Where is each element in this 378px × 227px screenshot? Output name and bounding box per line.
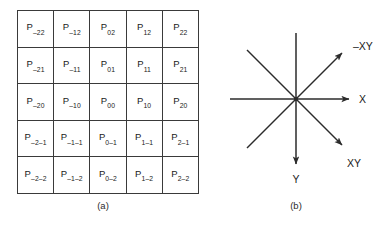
ray-up-left — [247, 50, 296, 99]
cell-subscript: 22 — [180, 29, 188, 36]
cell-subscript: 2–1 — [178, 139, 190, 146]
grid-cell: P01 — [90, 47, 126, 84]
cell-subscript: –1–1 — [67, 139, 83, 146]
table-row: P–22 P–12 P02 P12 P22 — [18, 11, 199, 48]
table-row: P–2–1 P–1–1 P0–1 P1–1 P2–1 — [18, 120, 199, 157]
label-minus-xy: –XY — [353, 40, 373, 52]
table-row: P–21 P–11 P01 P11 P21 — [18, 47, 199, 84]
grid-cell: P1–1 — [126, 120, 162, 157]
grid-cell: P–21 — [18, 47, 54, 84]
cell-subscript: –1–2 — [67, 175, 83, 182]
arrow-down-right-xy — [296, 99, 342, 145]
cell-base: P — [135, 131, 141, 142]
grid-cell: P–20 — [18, 84, 54, 121]
figure-a-grid: P–22 P–12 P02 P12 P22 P–21 P–11 P01 P11 … — [17, 10, 193, 188]
cell-subscript: 0–1 — [105, 139, 117, 146]
cell-subscript: 1–1 — [142, 139, 154, 146]
label-x: X — [359, 93, 366, 105]
grid-cell: P–2–1 — [18, 120, 54, 157]
cell-base: P — [171, 131, 177, 142]
grid-cell: P2–1 — [162, 120, 198, 157]
cell-subscript: –11 — [69, 66, 80, 73]
origin-dot — [294, 97, 298, 101]
ray-down-left — [247, 99, 296, 148]
cell-subscript: –10 — [69, 102, 81, 109]
arrow-up-right-minus-xy — [296, 53, 342, 99]
cell-base: P — [173, 58, 179, 69]
grid-cell: P–1–1 — [54, 120, 90, 157]
cell-subscript: 11 — [144, 66, 151, 73]
cell-subscript: 01 — [107, 66, 115, 73]
cell-subscript: 10 — [143, 102, 151, 109]
cell-base: P — [135, 168, 141, 179]
cell-subscript: 0–2 — [105, 175, 117, 182]
label-xy: XY — [347, 157, 361, 169]
grid-cell: P12 — [126, 11, 162, 48]
p-index-table: P–22 P–12 P02 P12 P22 P–21 P–11 P01 P11 … — [17, 10, 199, 194]
grid-cell: P1–2 — [126, 157, 162, 194]
grid-cell: P–12 — [54, 11, 90, 48]
grid-cell: P–22 — [18, 11, 54, 48]
cell-base: P — [173, 21, 179, 32]
grid-cell: P10 — [126, 84, 162, 121]
cell-subscript: 21 — [180, 66, 188, 73]
cell-subscript: 1–2 — [142, 175, 154, 182]
caption-figure-a: (a) — [63, 200, 143, 211]
grid-cell: P2–2 — [162, 157, 198, 194]
table-row: P–20 P–10 P00 P10 P20 — [18, 84, 199, 121]
cell-subscript: –2–1 — [31, 139, 47, 146]
grid-cell: P11 — [126, 47, 162, 84]
grid-cell: P–11 — [54, 47, 90, 84]
grid-cell: P–2–2 — [18, 157, 54, 194]
grid-cell: P–1–2 — [54, 157, 90, 194]
axes-svg: –XY X XY Y — [214, 12, 378, 188]
grid-cell: P0–2 — [90, 157, 126, 194]
cell-subscript: 00 — [107, 102, 115, 109]
cell-subscript: –21 — [33, 66, 45, 73]
cell-subscript: –20 — [33, 102, 45, 109]
table-row: P–2–2 P–1–2 P0–2 P1–2 P2–2 — [18, 157, 199, 194]
grid-cell: P00 — [90, 84, 126, 121]
label-y: Y — [292, 173, 299, 185]
cell-base: P — [173, 95, 179, 106]
grid-cell: P20 — [162, 84, 198, 121]
grid-cell: P02 — [90, 11, 126, 48]
grid-cell: P0–1 — [90, 120, 126, 157]
caption-figure-b: (b) — [256, 200, 336, 211]
grid-cell: P21 — [162, 47, 198, 84]
figure-b-axes: –XY X XY Y — [214, 12, 378, 188]
cell-subscript: 12 — [143, 29, 151, 36]
cell-subscript: 20 — [180, 102, 188, 109]
cell-subscript: –12 — [69, 29, 81, 36]
cell-base: P — [171, 168, 177, 179]
grid-cell: P–10 — [54, 84, 90, 121]
cell-base: P — [137, 58, 143, 69]
cell-subscript: –2–2 — [31, 175, 47, 182]
cell-subscript: 2–2 — [178, 175, 190, 182]
grid-cell: P22 — [162, 11, 198, 48]
cell-subscript: –22 — [33, 29, 45, 36]
cell-subscript: 02 — [107, 29, 115, 36]
